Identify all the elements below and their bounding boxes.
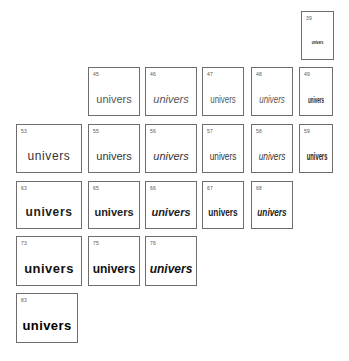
cell-sample: univers	[208, 151, 238, 162]
cell-number: 65	[93, 185, 99, 191]
cell-57: 57 univers	[202, 124, 244, 173]
cell-53: 53 univers	[16, 124, 82, 173]
cell-47: 47 univers	[202, 67, 244, 116]
cell-sample: univers	[146, 94, 196, 105]
cell-number: 66	[150, 185, 156, 191]
cell-number: 63	[21, 185, 27, 191]
cell-number: 47	[207, 71, 213, 77]
cell-sample: univers	[309, 39, 326, 45]
cell-number: 39	[306, 15, 312, 21]
cell-sample: univers	[257, 151, 287, 162]
cell-number: 76	[150, 240, 156, 246]
cell-number: 83	[21, 297, 27, 303]
cell-sample: univers	[308, 96, 324, 105]
cell-number: 73	[21, 240, 27, 246]
cell-73: 73 univers	[16, 236, 82, 286]
cell-48: 48 univers	[251, 67, 293, 116]
cell-56: 56 univers	[145, 124, 197, 173]
cell-sample: univers	[257, 207, 287, 218]
cell-number: 68	[256, 185, 262, 191]
cell-sample: univers	[307, 152, 326, 162]
cell-sample: univers	[89, 207, 139, 218]
cell-67: 67 univers	[202, 181, 244, 229]
cell-sample: univers	[258, 94, 287, 105]
cell-sample: univers	[146, 207, 196, 218]
cell-66: 66 univers	[145, 181, 197, 229]
cell-65: 65 univers	[88, 181, 140, 229]
cell-sample: univers	[209, 94, 238, 105]
cell-number: 45	[93, 71, 99, 77]
cell-sample: univers	[17, 206, 81, 218]
cell-55: 55 univers	[88, 124, 140, 173]
cell-58: 58 univers	[251, 124, 293, 173]
cell-63: 63 univers	[16, 181, 82, 229]
cell-number: 55	[93, 128, 99, 134]
cell-46: 46 univers	[145, 67, 197, 116]
cell-number: 59	[304, 128, 310, 134]
cell-number: 49	[304, 71, 310, 77]
cell-sample: univers	[146, 151, 196, 162]
cell-number: 75	[93, 240, 99, 246]
cell-39: 39 univers	[301, 11, 334, 60]
cell-sample: univers	[89, 263, 139, 275]
cell-sample: univers	[146, 263, 196, 275]
cell-number: 67	[207, 185, 213, 191]
cell-number: 48	[256, 71, 262, 77]
cell-45: 45 univers	[88, 67, 140, 116]
cell-number: 53	[21, 128, 27, 134]
cell-59: 59 univers	[299, 124, 333, 173]
cell-sample: univers	[89, 94, 139, 105]
cell-sample: univers	[17, 262, 81, 275]
cell-76: 76 univers	[145, 236, 197, 286]
cell-number: 57	[207, 128, 213, 134]
cell-49: 49 univers	[299, 67, 333, 116]
cell-83: 83 univers	[16, 293, 78, 343]
cell-number: 58	[256, 128, 262, 134]
cell-68: 68 univers	[251, 181, 293, 229]
cell-sample: univers	[208, 207, 238, 218]
cell-75: 75 univers	[88, 236, 140, 286]
cell-number: 56	[150, 128, 156, 134]
cell-sample: univers	[89, 151, 139, 162]
cell-number: 46	[150, 71, 156, 77]
cell-sample: univers	[17, 150, 81, 162]
cell-sample: univers	[17, 319, 77, 332]
